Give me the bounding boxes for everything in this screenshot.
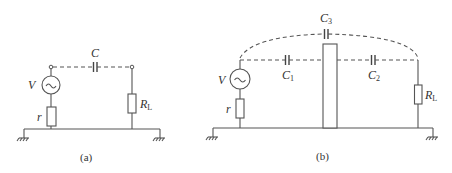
label-capacitor-c1: C1: [282, 68, 294, 83]
ground-icon: [426, 128, 438, 140]
node-terminal: [130, 65, 134, 69]
ground-icon: [17, 129, 29, 141]
label-capacitor-c2: C2: [368, 68, 380, 83]
label-source-v: V: [28, 78, 37, 92]
node-terminal: [49, 65, 53, 69]
resistor-r-icon: [236, 99, 244, 118]
stray-coupling-arc: [328, 34, 418, 58]
label-load-rl: RL: [424, 88, 437, 103]
circuit-figure: V r C RL (a): [0, 0, 452, 173]
capacitor-c3-icon: [325, 29, 329, 39]
label-resistor-r: r: [37, 110, 42, 124]
label-load-rl: RL: [139, 97, 152, 112]
resistor-r-icon: [47, 107, 56, 126]
panel-a: V r C RL (a): [17, 46, 165, 164]
capacitor-c1-icon: [286, 55, 290, 65]
resistor-rl-icon: [415, 85, 423, 104]
capacitor-c-icon: [94, 62, 98, 72]
label-resistor-r: r: [226, 102, 231, 116]
caption-a: (a): [80, 151, 93, 164]
ac-source-icon: [230, 69, 250, 89]
capacitor-c2-icon: [372, 55, 376, 65]
label-capacitor-c3: C3: [320, 11, 332, 26]
stray-coupling-arc: [240, 34, 324, 58]
ac-source-icon: [42, 76, 60, 94]
shield-barrier: [323, 44, 337, 128]
resistor-rl-icon: [128, 94, 136, 113]
label-source-v: V: [218, 73, 227, 87]
panel-b: V r C1 C2 C3 RL (b): [206, 11, 438, 163]
ground-icon: [206, 128, 218, 140]
caption-b: (b): [316, 150, 329, 163]
ground-icon: [153, 129, 165, 141]
label-capacitor-c: C: [91, 46, 100, 60]
